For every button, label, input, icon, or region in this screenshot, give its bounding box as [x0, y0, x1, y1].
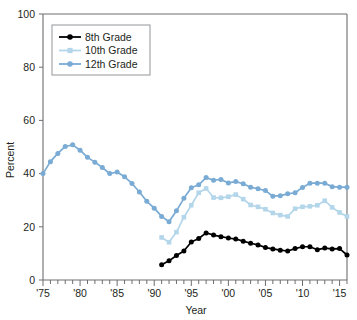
data-point — [278, 213, 283, 218]
data-point — [189, 239, 194, 244]
data-point — [137, 189, 142, 194]
data-point — [159, 262, 164, 267]
data-point — [218, 234, 223, 239]
data-point — [204, 175, 209, 180]
data-point — [204, 230, 209, 235]
data-point — [241, 197, 246, 202]
data-point — [85, 155, 90, 160]
data-point — [159, 214, 164, 219]
data-point — [226, 235, 231, 240]
data-point — [256, 186, 261, 191]
x-tick-label: '85 — [110, 287, 124, 299]
data-point — [189, 203, 194, 208]
data-point — [226, 180, 231, 185]
x-tick-label: '90 — [147, 287, 161, 299]
data-point — [211, 178, 216, 183]
data-point — [226, 194, 231, 199]
y-tick-label: 100 — [17, 8, 35, 20]
x-tick-label: '15 — [333, 287, 347, 299]
data-point — [308, 204, 313, 209]
data-point — [278, 193, 283, 198]
data-point — [144, 199, 149, 204]
x-tick-label: '10 — [296, 287, 310, 299]
data-point — [55, 151, 60, 156]
line-chart: 020406080100 '75'80'85'90'95'00'05'10'15… — [0, 0, 357, 320]
data-point — [78, 148, 83, 153]
data-point — [174, 230, 179, 235]
data-point — [181, 196, 186, 201]
x-tick-label: '75 — [36, 287, 50, 299]
data-point — [278, 248, 283, 253]
data-point — [263, 207, 268, 212]
chart-canvas: 020406080100 '75'80'85'90'95'00'05'10'15… — [0, 0, 357, 320]
data-point — [211, 195, 216, 200]
x-axis-title: Year — [185, 304, 207, 316]
data-point — [256, 242, 261, 247]
data-point — [107, 171, 112, 176]
data-point — [300, 205, 305, 210]
data-point — [204, 186, 209, 191]
data-point — [196, 236, 201, 241]
data-point — [285, 249, 290, 254]
y-tick-label: 60 — [23, 114, 35, 126]
data-point — [211, 233, 216, 238]
data-point — [248, 203, 253, 208]
data-point — [330, 205, 335, 210]
x-tick-label: '00 — [222, 287, 236, 299]
data-point — [263, 245, 268, 250]
legend-swatch-marker — [67, 61, 73, 67]
data-point — [345, 185, 350, 190]
data-point — [322, 181, 327, 186]
data-point — [315, 181, 320, 186]
data-point — [152, 206, 157, 211]
data-point — [115, 170, 120, 175]
y-tick-label: 0 — [29, 274, 35, 286]
data-point — [300, 185, 305, 190]
legend-swatch-marker — [67, 48, 72, 53]
data-point — [159, 235, 164, 240]
data-point — [189, 185, 194, 190]
data-point — [307, 181, 312, 186]
legend-item-label: 12th Grade — [85, 58, 138, 70]
data-point — [122, 174, 127, 179]
data-point — [307, 244, 312, 249]
data-point — [337, 210, 342, 215]
y-tick-label: 20 — [23, 221, 35, 233]
data-point — [92, 160, 97, 165]
data-point — [345, 214, 350, 219]
data-point — [48, 159, 53, 164]
data-point — [300, 244, 305, 249]
data-point — [337, 185, 342, 190]
data-point — [241, 239, 246, 244]
data-point — [263, 188, 268, 193]
data-point — [270, 246, 275, 251]
data-point — [218, 177, 223, 182]
chart-legend: 8th Grade10th Grade12th Grade — [52, 25, 150, 75]
data-point — [167, 219, 172, 224]
data-point — [41, 171, 46, 176]
data-point — [219, 196, 224, 201]
data-point — [167, 258, 172, 263]
data-point — [241, 181, 246, 186]
y-tick-label: 80 — [23, 61, 35, 73]
data-point — [271, 211, 276, 216]
data-point — [248, 185, 253, 190]
data-point — [233, 237, 238, 242]
data-point — [182, 215, 187, 220]
data-point — [167, 240, 172, 245]
data-point — [322, 246, 327, 251]
x-tick-label: '05 — [259, 287, 273, 299]
data-point — [233, 192, 238, 197]
data-point — [196, 182, 201, 187]
legend-swatch-marker — [67, 34, 73, 40]
data-point — [293, 206, 298, 211]
data-point — [63, 144, 68, 149]
data-point — [337, 246, 342, 251]
data-point — [248, 241, 253, 246]
data-point — [233, 179, 238, 184]
data-point — [285, 214, 290, 219]
y-axis-title: Percent — [4, 142, 16, 178]
y-tick-label: 40 — [23, 167, 35, 179]
x-tick-label: '80 — [73, 287, 87, 299]
data-point — [100, 165, 105, 170]
